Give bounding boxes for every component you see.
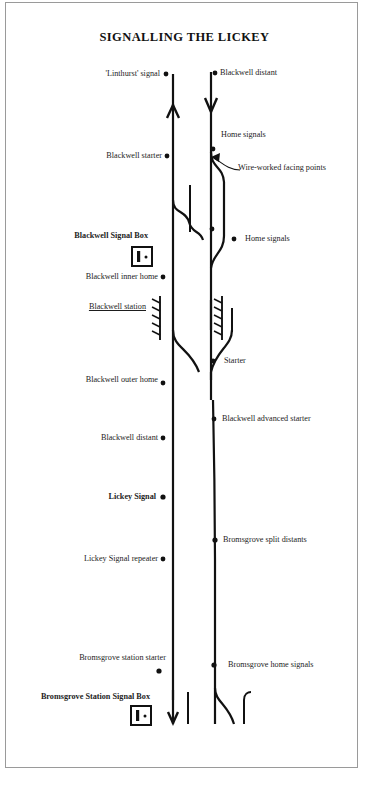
dot-blackwell-outer-home — [161, 381, 166, 386]
blackwell-signal-box-symbol — [132, 247, 152, 266]
dot-linthurst-signal — [164, 72, 169, 77]
label-blackwell-outer-home: Blackwell outer home — [14, 376, 158, 384]
label-blackwell-station: Blackwell station — [14, 303, 146, 311]
label-lickey-signal: Lickey Signal — [14, 493, 156, 501]
label-starter: Starter — [224, 357, 246, 365]
label-lickey-signal-repeater: Lickey Signal repeater — [14, 555, 158, 563]
dot-blackwell-advanced-starter — [212, 417, 217, 422]
bromsgrove-signal-box-symbol — [131, 706, 151, 725]
label-home-signals-lower: Home signals — [245, 235, 290, 243]
down-line-bottom-branch — [215, 688, 234, 724]
dot-starter — [211, 359, 216, 364]
label-linthurst-signal: 'Linthurst' signal — [14, 70, 160, 78]
label-bromsgrove-station-signal-box: Bromsgrove Station Signal Box — [6, 693, 150, 701]
signal-post-4 — [244, 692, 251, 700]
dot-home-signals-lower-a — [210, 227, 215, 232]
signalling-diagram — [0, 0, 369, 812]
label-blackwell-distant-lower: Blackwell distant — [14, 434, 158, 442]
label-bromsgrove-home-signals: Bromsgrove home signals — [228, 661, 314, 669]
dot-blackwell-inner-home — [161, 275, 166, 280]
down-loop-rejoin — [211, 236, 224, 268]
down-line-facing-points — [211, 152, 224, 236]
up-line-crossover — [173, 200, 203, 240]
dot-home-signals-upper — [211, 147, 216, 152]
up-line-converge — [173, 330, 199, 372]
up-platform-hatching — [152, 299, 160, 335]
dot-lickey-signal — [160, 494, 165, 499]
dot-bromsgrove-home-signals — [211, 662, 216, 667]
label-blackwell-advanced-starter: Blackwell advanced starter — [222, 415, 311, 423]
label-bromsgrove-split-distants: Bromsgrove split distants — [223, 536, 307, 544]
dot-blackwell-distant-top — [213, 71, 218, 76]
dot-bromsgrove-split-distants — [212, 537, 217, 542]
label-blackwell-distant-top: Blackwell distant — [220, 69, 277, 77]
dot-bromsgrove-station-starter — [156, 668, 161, 673]
label-home-signals-upper: Home signals — [221, 131, 266, 139]
label-blackwell-signal-box: Blackwell Signal Box — [14, 232, 148, 240]
dot-blackwell-distant-lower — [161, 436, 166, 441]
down-platform-hatching — [214, 299, 222, 335]
label-blackwell-inner-home: Blackwell inner home — [14, 273, 158, 281]
label-bromsgrove-station-starter: Bromsgrove station starter — [14, 654, 166, 662]
label-blackwell-starter: Blackwell starter — [14, 152, 162, 160]
page-root: SIGNALLING THE LICKEY — [0, 0, 369, 812]
dot-blackwell-starter — [165, 154, 170, 159]
dot-home-signals-lower-b — [232, 237, 237, 242]
label-wire-worked-facing-points: Wire-worked facing points — [238, 164, 326, 172]
down-line-long — [213, 400, 215, 724]
dot-lickey-signal-repeater — [161, 557, 166, 562]
